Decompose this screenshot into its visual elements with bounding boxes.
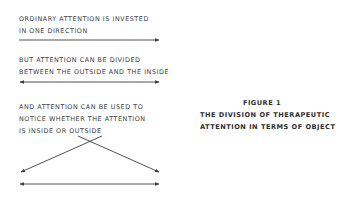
diagram-arrows bbox=[0, 0, 349, 204]
arrow-diagonal-right bbox=[78, 136, 159, 172]
